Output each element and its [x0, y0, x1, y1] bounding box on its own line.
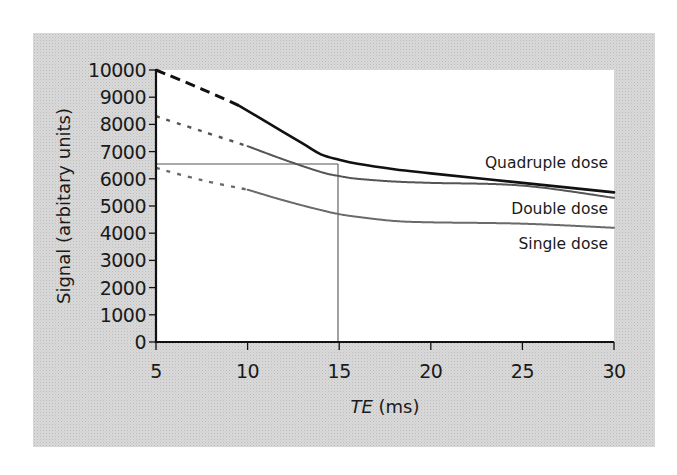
x-tick-label: 10 — [236, 360, 259, 382]
series-label-quadruple: Quadruple dose — [485, 154, 608, 172]
y-tick-label: 8000 — [100, 113, 146, 135]
y-axis-ticks: 0100020003000400050006000700080009000100… — [88, 59, 156, 353]
y-tick-label: 9000 — [100, 86, 146, 108]
y-axis-title: Signal (arbitary units) — [53, 108, 74, 304]
signal-vs-te-chart: 0100020003000400050006000700080009000100… — [0, 0, 677, 475]
y-tick-label: 7000 — [100, 141, 146, 163]
x-axis-title-unit: (ms) — [373, 396, 420, 417]
x-tick-label: 25 — [511, 360, 534, 382]
series-label-double: Double dose — [511, 200, 608, 218]
y-tick-label: 2000 — [100, 277, 146, 299]
y-tick-label: 6000 — [100, 168, 146, 190]
x-axis-ticks: 51015202530 — [150, 342, 625, 382]
x-axis-title: TE (ms) — [350, 396, 419, 417]
x-tick-label: 15 — [328, 360, 351, 382]
x-tick-label: 30 — [602, 360, 625, 382]
x-tick-label: 5 — [150, 360, 162, 382]
series-label-single: Single dose — [518, 235, 608, 253]
x-tick-label: 20 — [419, 360, 442, 382]
y-tick-label: 10000 — [88, 59, 146, 81]
y-tick-label: 5000 — [100, 195, 146, 217]
y-tick-label: 3000 — [100, 249, 146, 271]
y-tick-label: 1000 — [100, 304, 146, 326]
x-axis-title-symbol: TE — [350, 396, 373, 417]
y-tick-label: 4000 — [100, 222, 146, 244]
y-tick-label: 0 — [134, 331, 146, 353]
